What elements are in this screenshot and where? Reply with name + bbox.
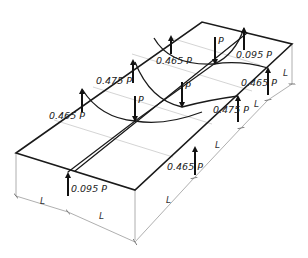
dimension-label-5: L xyxy=(254,99,259,109)
load-arrows xyxy=(135,37,215,119)
dimension-label-4: L xyxy=(215,140,220,150)
reaction-label-back-mid2: 0.465 P xyxy=(156,55,192,66)
reaction-label-front-left: 0.095 P xyxy=(71,183,107,194)
load-label-1: P xyxy=(138,94,144,105)
reaction-label-right-mid1: 0.465 P xyxy=(241,77,277,88)
dimension-label-3: L xyxy=(166,195,171,205)
dimension-label-2: L xyxy=(99,211,104,221)
reaction-label-right-mid2: 0.475 P xyxy=(213,104,249,115)
dimension-label-6: L xyxy=(283,68,288,78)
dimension-label-1: L xyxy=(40,196,45,206)
reaction-label-left-mid: 0.465 P xyxy=(49,110,85,121)
load-label-3: P xyxy=(218,35,224,46)
reaction-label-back-right: 0.095 P xyxy=(236,49,272,60)
side-edges xyxy=(16,44,292,240)
slab-diagram: P P P 0.095 P 0.465 P 0.475 P 0.465 P 0.… xyxy=(0,0,308,258)
reaction-label-back-mid1: 0.475 P xyxy=(96,75,132,86)
reaction-label-front-mid: 0.465 P xyxy=(167,161,203,172)
load-label-2: P xyxy=(185,80,191,91)
